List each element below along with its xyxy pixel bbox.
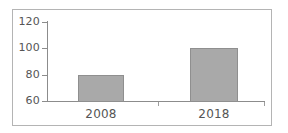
y-tick-label-80: 80 [5,69,47,80]
bar-2018 [190,48,238,102]
plot-area: 120 100 80 60 2008 2018 [0,0,288,133]
y-tick-row-120: 120 [0,16,47,27]
bar-chart-figure: 120 100 80 60 2008 2018 [0,0,288,133]
x-tick-label-2008: 2008 [71,107,131,121]
x-tick-mark-end [264,102,265,106]
y-tick-row-100: 100 [0,42,47,53]
y-tick-row-60: 60 [0,95,47,106]
y-tick-label-120: 120 [5,16,47,27]
x-tick-mark-separator [158,102,159,106]
x-tick-label-2018: 2018 [184,107,244,121]
bar-2008 [78,75,124,102]
y-tick-row-80: 80 [0,69,47,80]
y-axis-line [47,21,48,102]
y-tick-label-100: 100 [5,42,47,53]
y-tick-label-60: 60 [5,95,47,106]
